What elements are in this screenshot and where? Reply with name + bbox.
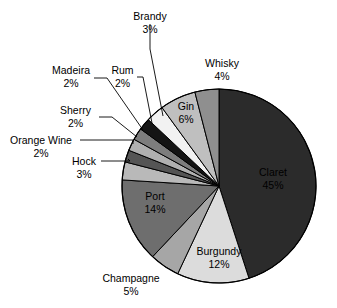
label-brandy-pct: 3% (117, 23, 183, 36)
label-madeira-pct: 2% (45, 77, 97, 90)
label-rum-name: Rum (111, 64, 133, 76)
leader-line-orange-wine (80, 140, 133, 144)
leader-line-brandy (150, 24, 163, 116)
label-madeira: Madeira 2% (45, 64, 97, 89)
label-hock-pct: 3% (66, 168, 102, 181)
label-brandy-name: Brandy (133, 10, 166, 22)
label-madeira-name: Madeira (52, 64, 90, 76)
label-claret-pct: 45% (249, 179, 297, 192)
label-orange-wine-name: Orange Wine (10, 134, 72, 146)
label-hock-name: Hock (72, 155, 96, 167)
label-gin-pct: 6% (169, 113, 203, 126)
label-burgundy-pct: 12% (188, 258, 250, 271)
label-champagne-name: Champagne (102, 272, 159, 284)
label-claret: Claret 45% (249, 166, 297, 191)
label-champagne-pct: 5% (91, 285, 171, 298)
label-port-pct: 14% (135, 203, 175, 216)
label-hock: Hock 3% (66, 155, 102, 180)
label-whisky: Whisky 4% (190, 57, 254, 82)
label-port: Port 14% (135, 190, 175, 215)
label-gin: Gin 6% (169, 100, 203, 125)
label-sherry-name: Sherry (60, 104, 91, 116)
label-gin-name: Gin (178, 100, 194, 112)
leader-line-sherry (99, 117, 137, 137)
label-rum: Rum 2% (105, 64, 140, 89)
label-burgundy: Burgundy 12% (188, 245, 250, 270)
pie-chart-page: Brandy 3% Whisky 4% Madeira 2% Rum 2% Sh… (0, 0, 337, 308)
label-sherry-pct: 2% (52, 117, 99, 130)
label-burgundy-name: Burgundy (197, 245, 242, 257)
label-claret-name: Claret (259, 166, 287, 178)
label-whisky-pct: 4% (190, 70, 254, 83)
label-rum-pct: 2% (105, 77, 140, 90)
label-sherry: Sherry 2% (52, 104, 99, 129)
label-champagne: Champagne 5% (91, 272, 171, 297)
label-brandy: Brandy 3% (117, 10, 183, 35)
label-port-name: Port (145, 190, 164, 202)
label-whisky-name: Whisky (205, 57, 239, 69)
